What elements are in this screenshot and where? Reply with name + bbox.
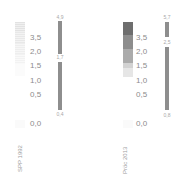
bar-min-label: 0,4 xyxy=(53,112,67,117)
legend-swatches xyxy=(15,22,25,76)
swatch-zero xyxy=(123,120,133,128)
swatch xyxy=(15,43,25,54)
panel-proc-2013: 3,5 2,0 1,5 1,0 0,5 0,0 5,7 2,5 0,8 Pröc… xyxy=(90,0,181,187)
tick-label: 2,0 xyxy=(136,48,147,56)
tick-label: 1,5 xyxy=(30,62,41,70)
panel-title: SPP 1992 xyxy=(17,145,23,172)
tick-label: 2,0 xyxy=(30,48,41,56)
panel-title: Pröc 2013 xyxy=(122,147,128,174)
swatch xyxy=(15,32,25,43)
range-bar-upper xyxy=(58,21,62,54)
tick-label: 0,0 xyxy=(136,120,147,128)
swatch-zero xyxy=(15,120,25,128)
tick-label: 0,0 xyxy=(30,120,41,128)
tick-label: 0,5 xyxy=(136,91,147,99)
range-bar-upper xyxy=(165,22,169,37)
tick-label: 0,5 xyxy=(30,91,41,99)
range-bar-lower xyxy=(165,47,169,110)
swatch xyxy=(123,49,133,63)
bar-min-label: 0,8 xyxy=(160,113,174,118)
swatch xyxy=(123,35,133,49)
bar-max-label: 4,9 xyxy=(53,15,67,20)
swatch xyxy=(15,54,25,64)
legend-swatches xyxy=(123,22,133,77)
tick-label: 1,0 xyxy=(136,77,147,85)
swatch xyxy=(123,22,133,35)
range-bar-lower xyxy=(58,62,62,110)
swatch xyxy=(123,68,133,77)
tick-label: 3,5 xyxy=(136,34,147,42)
tick-label: 1,0 xyxy=(30,77,41,85)
bar-max-label: 5,7 xyxy=(160,15,174,20)
tick-label: 3,5 xyxy=(30,34,41,42)
swatch xyxy=(15,22,25,32)
bar-mid-label: 1,7 xyxy=(53,55,67,60)
panel-spp-1992: 3,5 2,0 1,5 1,0 0,5 0,0 4,9 1,7 0,4 SPP … xyxy=(0,0,90,187)
swatch xyxy=(15,64,25,76)
bar-mid-label: 2,5 xyxy=(160,40,174,45)
tick-label: 1,5 xyxy=(136,62,147,70)
